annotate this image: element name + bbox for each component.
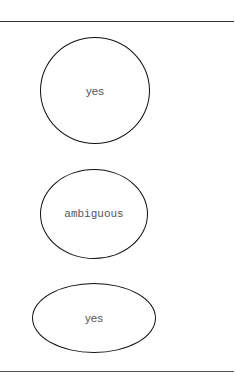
node-ambiguous-ellipse: ambiguous xyxy=(40,169,148,259)
bottom-divider xyxy=(0,371,234,372)
top-divider xyxy=(0,21,234,22)
node-yes-circle: yes xyxy=(40,37,150,144)
node-label: yes xyxy=(85,312,103,324)
node-yes-ellipse: yes xyxy=(32,283,156,353)
node-label: yes xyxy=(86,85,104,97)
node-label: ambiguous xyxy=(64,208,123,220)
